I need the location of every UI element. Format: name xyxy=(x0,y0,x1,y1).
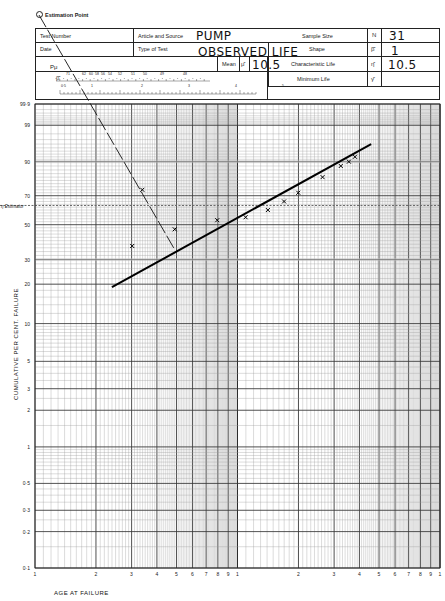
x-tick-label: 8 xyxy=(419,571,422,577)
y-tick-label: 0·1 xyxy=(0,565,30,571)
x-tick-label: 4 xyxy=(155,571,158,577)
y-tick-label: 99·9 xyxy=(0,101,30,107)
x-tick-label: 8 xyxy=(216,571,219,577)
x-tick-label: 2 xyxy=(297,571,300,577)
x-tick-label: 6 xyxy=(191,571,194,577)
x-tick-label: 5 xyxy=(378,571,381,577)
x-tick-label: 2 xyxy=(94,571,97,577)
x-tick-label: 4 xyxy=(358,571,361,577)
y-tick-label: 0·5 xyxy=(0,480,30,486)
x-tick-label: 1 xyxy=(439,571,442,577)
y-tick-label: 2 xyxy=(0,407,30,413)
x-tick-label: 6 xyxy=(394,571,397,577)
x-tick-label: 3 xyxy=(130,571,133,577)
y-axis-title: CUMULATIVE PER CENT. FAILURE xyxy=(13,288,19,400)
x-tick-label: 9 xyxy=(227,571,230,577)
x-tick-label: 1 xyxy=(34,571,37,577)
y-tick-label: 0·3 xyxy=(0,507,30,513)
x-axis-title: AGE AT FAILURE xyxy=(54,590,109,596)
x-tick-label: 5 xyxy=(175,571,178,577)
x-tick-label: 3 xyxy=(333,571,336,577)
weibull-plot xyxy=(0,0,445,601)
x-tick-label: 7 xyxy=(205,571,208,577)
y-tick-label: 70 xyxy=(0,193,30,199)
data-point xyxy=(130,244,134,248)
y-tick-label: 30 xyxy=(0,257,30,263)
y-tick-label: 0·2 xyxy=(0,529,30,535)
y-tick-label: 50 xyxy=(0,222,30,228)
y-tick-label: 20 xyxy=(0,281,30,287)
y-tick-label: 99 xyxy=(0,122,30,128)
x-tick-label: 7 xyxy=(407,571,410,577)
y-tick-label: 1 xyxy=(0,444,30,450)
y-tick-label: 90 xyxy=(0,159,30,165)
eta-estimator-label: η Estimator xyxy=(1,204,24,209)
x-tick-label: 1 xyxy=(236,571,239,577)
x-tick-label: 9 xyxy=(429,571,432,577)
